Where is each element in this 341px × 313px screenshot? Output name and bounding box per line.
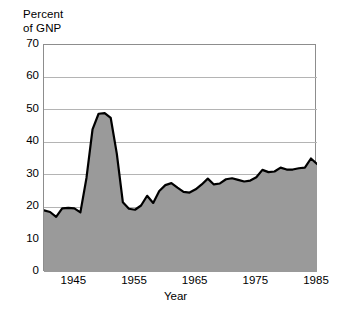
y-tick-label-40: 40 [1,136,39,148]
plot-area [43,44,316,271]
y-axis-tick-labels: 010203040506070 [0,0,39,313]
x-axis-title: Year [0,290,341,303]
y-tick-label-70: 70 [1,38,39,50]
y-tick-label-20: 20 [1,200,39,212]
y-tick-label-30: 30 [1,168,39,180]
y-tick-label-60: 60 [1,71,39,83]
x-axis-title-text: Year [164,290,187,303]
x-tick-label-1945: 1945 [43,274,103,287]
y-tick-label-10: 10 [1,233,39,245]
x-tick-label-1975: 1975 [225,274,285,287]
chart-figure: Percent of GNP 010203040506070 194519551… [0,0,341,313]
x-axis-tick-labels: 19451955196519751985 [0,274,341,290]
area-chart-svg [44,45,317,272]
x-tick-label-1955: 1955 [104,274,164,287]
x-tick-label-1965: 1965 [165,274,225,287]
y-tick-label-50: 50 [1,103,39,115]
x-tick-label-1985: 1985 [286,274,341,287]
